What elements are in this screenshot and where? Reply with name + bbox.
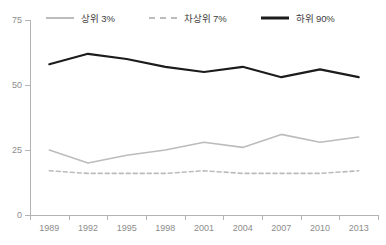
line-chart: 상위 3% 차상위 7% 하위 90% 0255075 198919921995… <box>0 0 386 245</box>
series-line <box>49 54 358 77</box>
series-line <box>49 134 358 163</box>
series-layer <box>0 0 386 245</box>
series-line <box>49 171 358 174</box>
